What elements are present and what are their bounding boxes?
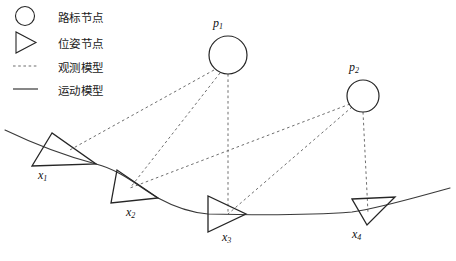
legend-label-landmark: 路标节点	[58, 9, 104, 25]
pose-label-x3: x3	[222, 230, 231, 245]
landmark-label-p1: p1	[213, 16, 223, 31]
legend-landmark-circle-icon	[16, 7, 35, 26]
observation-edge-p1-x2	[130, 73, 220, 188]
landmark-label-p2: p2	[349, 60, 359, 75]
observation-edge-p2-x3	[228, 107, 352, 214]
legend-pose-triangle-icon	[16, 32, 36, 53]
pose-node-x2	[111, 170, 158, 203]
landmark-node-p2	[347, 80, 379, 112]
pose-label-x2: x2	[126, 205, 135, 220]
legend-label-motion: 运动模型	[58, 82, 104, 98]
pose-nodes-group	[32, 133, 395, 232]
landmark-node-p1	[209, 36, 247, 74]
legend-label-observation: 观测模型	[58, 59, 104, 75]
legend-label-pose: 位姿节点	[58, 35, 104, 51]
pose-label-x1: x1	[38, 168, 47, 183]
figure-canvas: 路标节点 位姿节点 观测模型 运动模型 p1p2x1x2x3x4	[0, 0, 456, 261]
legend-glyphs	[13, 7, 38, 90]
pose-node-x4	[352, 197, 395, 225]
pose-label-x4: x4	[352, 227, 361, 242]
